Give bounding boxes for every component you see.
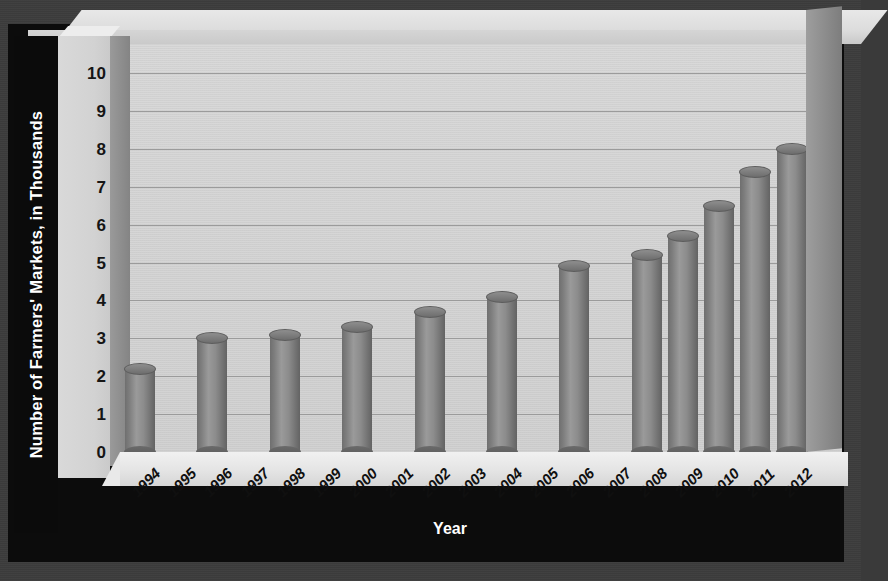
x-axis-tick-label: 2004 bbox=[490, 464, 526, 500]
x-axis-tick-label: 2011 bbox=[743, 465, 778, 500]
x-axis-tick-label: 2001 bbox=[381, 464, 417, 500]
x-axis-title: Year bbox=[60, 512, 840, 546]
x-axis-tick-label: 1996 bbox=[200, 464, 236, 500]
x-axis-tick-label: 1998 bbox=[273, 464, 309, 500]
x-axis-tick-label: 1999 bbox=[309, 464, 345, 500]
x-axis-tick-label: 1994 bbox=[128, 464, 164, 500]
x-axis-tick-label: 2010 bbox=[707, 464, 743, 500]
x-axis-tick-label: 2002 bbox=[418, 464, 454, 500]
x-axis-tick-label: 2003 bbox=[454, 464, 490, 500]
x-axis-tick-label: 2007 bbox=[599, 464, 635, 500]
x-axis-tick-label: 2000 bbox=[345, 464, 381, 500]
x-axis-tick-label: 1997 bbox=[237, 464, 273, 500]
x-axis-tick-label: 2009 bbox=[671, 464, 707, 500]
x-axis-tick-label: 2006 bbox=[562, 464, 598, 500]
x-axis-tick-label: 2008 bbox=[635, 464, 671, 500]
x-axis-tick-label: 2005 bbox=[526, 464, 562, 500]
x-axis-tick-label: 2012 bbox=[780, 464, 816, 500]
x-axis-tick-label: 1995 bbox=[164, 464, 200, 500]
